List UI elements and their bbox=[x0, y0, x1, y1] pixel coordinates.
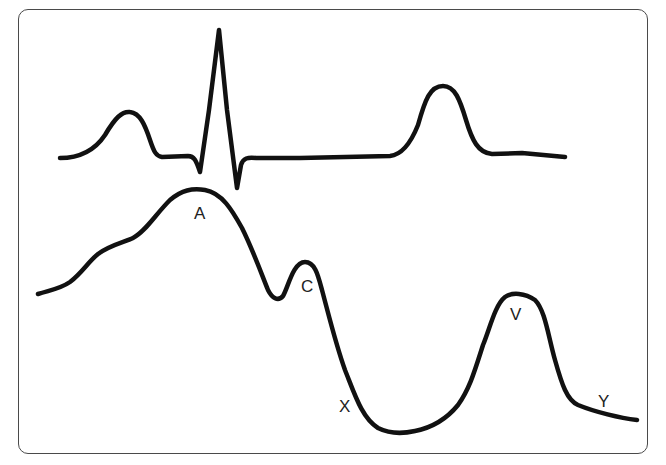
label-c-wave: C bbox=[301, 277, 313, 296]
label-v-wave: V bbox=[510, 305, 522, 324]
label-x-descent: X bbox=[339, 397, 350, 416]
waveform-diagram: A C X V Y bbox=[0, 0, 666, 465]
label-a-wave: A bbox=[194, 204, 206, 223]
ecg-trace bbox=[60, 30, 565, 188]
label-y-descent: Y bbox=[598, 392, 609, 411]
jvp-trace bbox=[38, 189, 637, 433]
